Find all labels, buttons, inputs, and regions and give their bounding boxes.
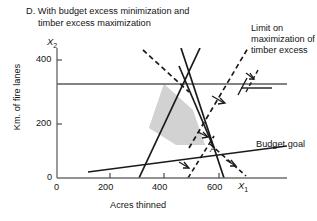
chart-title-line2: timber excess maximization: [26, 18, 226, 30]
y-axis-symbol: X2: [47, 36, 57, 49]
point-a-label: A: [210, 144, 216, 154]
y-tick-label-200: 200: [36, 118, 51, 128]
plot-area: [57, 48, 287, 178]
goal-line-timber-excess-max: [143, 50, 189, 92]
x-axis-symbol: X1: [238, 180, 248, 193]
x-tick-label-600: 600: [207, 182, 222, 192]
limit-callout-marker: [238, 70, 272, 95]
y-tick-label-400: 400: [36, 54, 51, 64]
chart-title: D. With budget excess minimization and t…: [26, 6, 226, 29]
x-tick-label-200: 200: [98, 182, 113, 192]
chart-title-line1: D. With budget excess minimization and: [26, 6, 189, 16]
x-axis-title: Acres thinned: [110, 200, 166, 210]
y-tick-label-0: 0: [47, 172, 52, 182]
annotation-limit-timber-excess: Limit on maximization of timber excess: [251, 23, 317, 57]
y-axis-title: Km. of fire lanes: [12, 52, 22, 142]
annotation-budget-goal: Budget goal: [256, 139, 314, 150]
x-tick-label-0: 0: [54, 182, 59, 192]
x-tick-label-400: 400: [152, 182, 167, 192]
